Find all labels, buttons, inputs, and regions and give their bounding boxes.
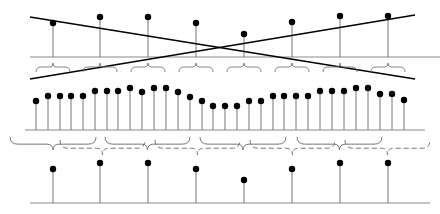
middle-sample-dot [163, 85, 169, 91]
top-window-brace [275, 63, 309, 72]
middle-sample-dot [68, 93, 74, 99]
bottom-sample-dot [241, 177, 247, 183]
bottom-sample-dot [50, 166, 56, 172]
top-crossing-lines [30, 15, 415, 79]
middle-sample-dot [33, 98, 39, 104]
middle-sample-dot [80, 93, 86, 99]
middle-sample-dot [270, 93, 276, 99]
top-sample-dot [145, 14, 151, 20]
middle-sample-dot [234, 103, 240, 109]
top-window-brace [227, 63, 261, 72]
dashed-window-brace [60, 140, 145, 155]
middle-sample-dot [246, 98, 252, 104]
bottom-sample-dot [97, 160, 103, 166]
top-sample-dot [289, 19, 295, 25]
dashed-window-brace [250, 140, 335, 155]
middle-sample-dot [401, 97, 407, 103]
middle-sample-dot [222, 103, 228, 109]
multirate-diagram [0, 0, 440, 214]
top-row-braces [36, 63, 405, 72]
middle-sample-dot [258, 98, 264, 104]
top-window-brace [131, 63, 165, 72]
bottom-row-braces [10, 137, 430, 155]
top-sample-dot [97, 14, 103, 20]
dashed-window-brace [155, 140, 240, 155]
middle-row-sequence [25, 85, 425, 130]
middle-sample-dot [199, 98, 205, 104]
middle-sample-dot [92, 88, 98, 94]
middle-sample-dot [317, 88, 323, 94]
top-sample-dot [337, 13, 343, 19]
middle-sample-dot [175, 89, 181, 95]
middle-sample-dot [353, 85, 359, 91]
middle-sample-dot [151, 85, 157, 91]
middle-sample-dot [281, 93, 287, 99]
middle-sample-dot [210, 103, 216, 109]
middle-sample-dot [187, 94, 193, 100]
middle-sample-dot [305, 93, 311, 99]
middle-sample-dot [127, 85, 133, 91]
bottom-sample-dot [385, 160, 391, 166]
middle-sample-dot [377, 91, 383, 97]
bottom-sample-dot [145, 160, 151, 166]
top-window-brace [36, 63, 70, 72]
top-sample-dot [193, 20, 199, 26]
top-window-brace [371, 63, 405, 72]
middle-sample-dot [329, 88, 335, 94]
top-sample-dot [241, 31, 247, 37]
middle-sample-dot [365, 85, 371, 91]
bottom-row-sequence [30, 160, 430, 203]
middle-sample-dot [341, 88, 347, 94]
bottom-sample-dot [289, 166, 295, 172]
middle-sample-dot [57, 93, 63, 99]
top-window-brace [179, 63, 213, 72]
middle-sample-dot [45, 93, 51, 99]
top-sample-dot [385, 13, 391, 19]
bottom-sample-dot [193, 166, 199, 172]
middle-sample-dot [139, 89, 145, 95]
dashed-window-brace [345, 140, 430, 155]
diagram-svg [0, 0, 440, 214]
middle-sample-dot [115, 88, 121, 94]
middle-sample-dot [293, 93, 299, 99]
middle-sample-dot [389, 91, 395, 97]
bottom-sample-dot [337, 160, 343, 166]
middle-sample-dot [104, 88, 110, 94]
